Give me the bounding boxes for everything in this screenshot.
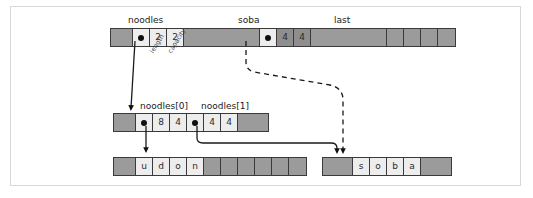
- connector-noodles-to-header-array: [131, 41, 135, 108]
- connector-noodles1-to-soba: [197, 126, 337, 151]
- diagram-canvas: 2244 8444 udon soba noodles soba last le…: [0, 0, 533, 198]
- pointer-connectors: [0, 0, 533, 198]
- connector-soba-to-soba-array: [246, 41, 343, 151]
